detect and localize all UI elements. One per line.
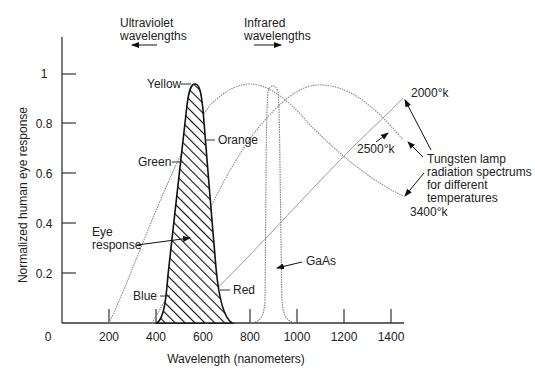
uv-label-line2: wavelengths — [119, 29, 187, 43]
label-orange: Orange — [218, 133, 258, 147]
x-tick-label: 1000 — [284, 330, 311, 344]
label-yellow: Yellow — [147, 77, 182, 91]
ir-annotation: Infrared wavelengths — [243, 16, 311, 45]
ir-label-line2: wavelengths — [243, 29, 311, 43]
eye-response-label-line2: response — [92, 238, 142, 252]
x-tick-label: 600 — [193, 330, 213, 344]
tungsten-label-line1: Tungsten lamp — [427, 152, 506, 166]
label-gaas: GaAs — [306, 254, 336, 268]
label-green: Green — [138, 155, 171, 169]
ir-label-line1: Infrared — [244, 16, 285, 30]
tungsten-arrow-2500k — [408, 142, 423, 157]
spectral-response-chart: 1 0.8 0.6 0.4 0.2 0 200 400 600 800 1000… — [0, 0, 535, 377]
y-tick-label: 1 — [41, 67, 48, 81]
y-tick-label: 0.8 — [36, 117, 53, 131]
series-3400k-curve — [109, 84, 403, 323]
gaas-arrow — [277, 262, 302, 268]
label-2500k: 2500°k — [357, 142, 395, 156]
y-axis — [62, 37, 76, 323]
label-blue: Blue — [133, 289, 157, 303]
y-axis-title: Normalized human eye response — [16, 107, 30, 283]
x-axis — [62, 309, 404, 323]
tungsten-label-line2: radiation spectrums — [427, 165, 532, 179]
x-tick-label: 0 — [45, 330, 52, 344]
tungsten-label-line3: for different — [427, 178, 488, 192]
y-tick-label: 0.6 — [36, 167, 53, 181]
x-tick-label: 1400 — [378, 330, 405, 344]
x-tick-label: 800 — [240, 330, 260, 344]
label-3400k: 3400°k — [410, 205, 448, 219]
x-tick-label: 400 — [146, 330, 166, 344]
series-gaas-curve — [250, 86, 297, 323]
x-tick-label: 1200 — [331, 330, 358, 344]
x-axis-title: Wavelength (nanometers) — [167, 352, 305, 366]
series-eye-response-area — [157, 84, 232, 323]
2500k-arrow — [376, 133, 388, 142]
label-2000k: 2000°k — [411, 86, 449, 100]
y-tick-label: 0.2 — [36, 267, 53, 281]
eye-response-label-line1: Eye — [92, 225, 113, 239]
y-tick-label: 0.4 — [36, 217, 53, 231]
tungsten-label-line4: temperatures — [427, 191, 498, 205]
tungsten-arrow-3400k — [405, 173, 424, 196]
tungsten-annotation: Tungsten lamp radiation spectrums for di… — [405, 100, 532, 205]
uv-label-line1: Ultraviolet — [120, 16, 174, 30]
uv-annotation: Ultraviolet wavelengths — [119, 16, 187, 45]
x-tick-label: 200 — [99, 330, 119, 344]
label-red: Red — [233, 283, 255, 297]
